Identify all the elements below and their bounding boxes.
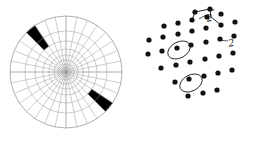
lattice-dot-1-4 (218, 11, 223, 16)
lattice-dot-4-5 (230, 50, 235, 55)
lattice-dot-0-0 (192, 9, 197, 14)
dot-lattice-diagram (133, 0, 260, 150)
polar-sector-diagram (0, 0, 133, 150)
lattice-dot-4-2 (187, 59, 192, 64)
lattice-dot-5-0 (172, 79, 177, 84)
polar-spoke-4 (66, 32, 106, 72)
lattice-dot-3-2 (174, 45, 179, 50)
panel-lattice-diagram (133, 0, 260, 150)
lattice-dot-2-0 (146, 37, 151, 42)
polar-spoke-20 (26, 72, 66, 112)
lattice-dot-1-2 (189, 17, 194, 22)
lattice-dot-5-2 (201, 73, 206, 78)
lattice-dot-5-1 (186, 76, 191, 81)
lattice-dot-4-4 (216, 53, 221, 58)
lattice-dot-6-0 (185, 93, 190, 98)
lattice-dot-1-1 (175, 20, 180, 25)
lattice-dot-4-3 (202, 56, 207, 61)
lattice-dot-2-6 (232, 19, 237, 24)
lattice-dot-3-1 (159, 48, 164, 53)
lattice-dot-6-1 (200, 90, 205, 95)
lattice-dot-5-4 (229, 67, 234, 72)
lattice-dot-3-5 (217, 36, 222, 41)
lattice-dot-2-4 (203, 25, 208, 30)
lattice-dot-3-0 (145, 51, 150, 56)
circled-lattice-point-1 (165, 37, 194, 62)
lattice-dot-3-3 (188, 42, 193, 47)
lattice-dot-2-3 (189, 28, 194, 33)
lattice-dot-2-1 (160, 34, 165, 39)
lattice-dot-3-4 (203, 39, 208, 44)
lattice-dot-1-0 (161, 23, 166, 28)
lattice-dot-2-5 (218, 22, 223, 27)
polar-spoke-28 (26, 32, 66, 72)
panel-polar-diagram (0, 0, 133, 150)
lattice-dot-6-2 (214, 87, 219, 92)
lattice-dot-5-3 (215, 70, 220, 75)
lattice-dot-4-1 (173, 62, 178, 67)
polar-spoke-12 (66, 72, 106, 112)
lattice-dot-4-0 (158, 65, 163, 70)
figure-root: 2″ 2′ (0, 0, 260, 150)
lattice-dot-2-2 (175, 31, 180, 36)
